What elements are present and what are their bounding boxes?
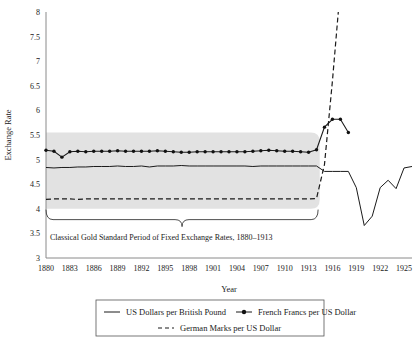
x-tick-label: 1880 bbox=[38, 264, 54, 273]
x-tick-label: 1919 bbox=[348, 264, 364, 273]
data-point-marker bbox=[44, 149, 47, 152]
data-point-marker bbox=[307, 151, 310, 154]
data-point-marker bbox=[275, 149, 278, 152]
x-tick-label: 1910 bbox=[277, 264, 293, 273]
data-point-marker bbox=[52, 150, 55, 153]
x-tick-label: 1904 bbox=[229, 264, 245, 273]
data-point-marker bbox=[203, 150, 206, 153]
x-axis-ticks: 1880188318861889189218951898190119041907… bbox=[38, 264, 412, 273]
y-tick-label: 7 bbox=[36, 57, 40, 66]
data-point-marker bbox=[124, 150, 127, 153]
data-point-marker bbox=[235, 150, 238, 153]
x-tick-label: 1886 bbox=[86, 264, 102, 273]
gold-standard-brace bbox=[46, 210, 318, 227]
y-tick-label: 5 bbox=[36, 156, 40, 165]
data-point-marker bbox=[140, 150, 143, 153]
data-point-marker bbox=[84, 150, 87, 153]
gold-standard-band bbox=[46, 133, 320, 209]
y-tick-label: 7.5 bbox=[30, 33, 40, 42]
data-point-marker bbox=[227, 150, 230, 153]
data-point-marker bbox=[315, 148, 318, 151]
y-tick-label: 8 bbox=[36, 8, 40, 17]
data-point-marker bbox=[323, 125, 326, 128]
x-tick-label: 1913 bbox=[301, 264, 317, 273]
data-point-marker bbox=[267, 149, 270, 152]
x-tick-label: 1925 bbox=[396, 264, 412, 273]
legend-label: US Dollars per British Pound bbox=[126, 307, 227, 317]
x-tick-label: 1895 bbox=[157, 264, 173, 273]
data-point-marker bbox=[188, 151, 191, 154]
y-tick-label: 3 bbox=[36, 254, 40, 263]
exchange-rate-chart: 33.544.555.566.577.58 188018831886188918… bbox=[0, 0, 420, 340]
data-point-marker bbox=[156, 149, 159, 152]
data-point-marker bbox=[211, 150, 214, 153]
legend-label: German Marks per US Dollar bbox=[180, 323, 281, 333]
data-point-marker bbox=[180, 151, 183, 154]
y-axis-ticks: 33.544.555.566.577.58 bbox=[30, 8, 40, 263]
data-point-marker bbox=[100, 150, 103, 153]
data-point-marker bbox=[219, 150, 222, 153]
data-point-marker bbox=[291, 150, 294, 153]
x-tick-label: 1898 bbox=[181, 264, 197, 273]
x-axis-title: Year bbox=[221, 284, 237, 294]
data-point-marker bbox=[68, 150, 71, 153]
data-point-marker bbox=[299, 150, 302, 153]
x-tick-label: 1889 bbox=[110, 264, 126, 273]
x-tick-label: 1883 bbox=[62, 264, 78, 273]
x-tick-label: 1916 bbox=[324, 264, 340, 273]
data-point-marker bbox=[76, 150, 79, 153]
y-tick-label: 6.5 bbox=[30, 82, 40, 91]
gold-standard-annotation-label: Classical Gold Standard Period of Fixed … bbox=[50, 233, 272, 242]
data-point-marker bbox=[108, 150, 111, 153]
data-point-marker bbox=[195, 150, 198, 153]
data-point-marker bbox=[148, 150, 151, 153]
x-tick-label: 1922 bbox=[372, 264, 388, 273]
y-tick-label: 4 bbox=[36, 205, 40, 214]
data-point-marker bbox=[60, 155, 63, 158]
y-tick-label: 3.5 bbox=[30, 229, 40, 238]
y-tick-label: 6 bbox=[36, 106, 40, 115]
chart-svg: 33.544.555.566.577.58 188018831886188918… bbox=[0, 0, 420, 340]
y-tick-label: 5.5 bbox=[30, 131, 40, 140]
data-point-marker bbox=[132, 150, 135, 153]
data-point-marker bbox=[251, 150, 254, 153]
data-point-marker bbox=[164, 150, 167, 153]
data-point-marker bbox=[347, 131, 350, 134]
y-axis-title: Exchange Rate bbox=[3, 109, 13, 160]
data-point-marker bbox=[331, 118, 334, 121]
data-point-marker bbox=[172, 150, 175, 153]
x-tick-label: 1892 bbox=[133, 264, 149, 273]
data-point-marker bbox=[259, 149, 262, 152]
data-point-marker bbox=[339, 118, 342, 121]
data-point-marker bbox=[283, 150, 286, 153]
legend-swatch-marker bbox=[242, 310, 246, 314]
data-point-marker bbox=[116, 149, 119, 152]
data-point-marker bbox=[92, 150, 95, 153]
chart-legend: US Dollars per British PoundFrench Franc… bbox=[96, 300, 356, 336]
legend-label: French Francs per US Dollar bbox=[258, 307, 356, 317]
x-tick-label: 1901 bbox=[205, 264, 221, 273]
x-tick-label: 1907 bbox=[253, 264, 269, 273]
data-point-marker bbox=[243, 150, 246, 153]
y-tick-label: 4.5 bbox=[30, 180, 40, 189]
